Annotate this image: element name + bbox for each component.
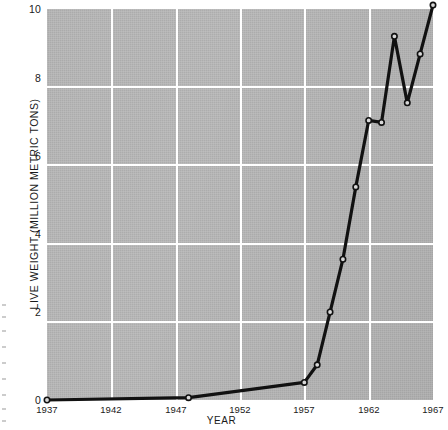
- x-tick-1957: 1957: [274, 404, 334, 415]
- plot-area: [47, 9, 433, 400]
- x-tick-1942: 1942: [81, 404, 141, 415]
- data-point-1937: [44, 397, 49, 402]
- series-live-weight: [47, 9, 433, 400]
- data-point-1961: [353, 184, 358, 189]
- data-point-1957: [302, 380, 307, 385]
- data-point-1964: [392, 34, 397, 39]
- data-point-1962: [366, 118, 371, 123]
- data-point-1959: [327, 309, 332, 314]
- x-tick-1967: 1967: [403, 404, 448, 415]
- data-point-1958: [315, 362, 320, 367]
- x-tick-1937: 1937: [17, 404, 77, 415]
- series-line: [47, 5, 433, 400]
- data-point-1967: [430, 2, 435, 7]
- y-tick-10: 10: [7, 3, 41, 15]
- data-point-1948: [186, 395, 191, 400]
- x-tick-1952: 1952: [210, 404, 270, 415]
- data-point-1966: [417, 51, 422, 56]
- x-axis-title: YEAR: [0, 415, 443, 426]
- x-tick-1962: 1962: [339, 404, 399, 415]
- data-point-1960: [340, 257, 345, 262]
- series-markers: [44, 2, 435, 402]
- data-point-1963: [379, 120, 384, 125]
- y-axis-title: LIVE WEIGHT (MILLION METRIC TONS): [28, 54, 40, 354]
- data-point-1965: [405, 100, 410, 105]
- x-tick-1947: 1947: [146, 404, 206, 415]
